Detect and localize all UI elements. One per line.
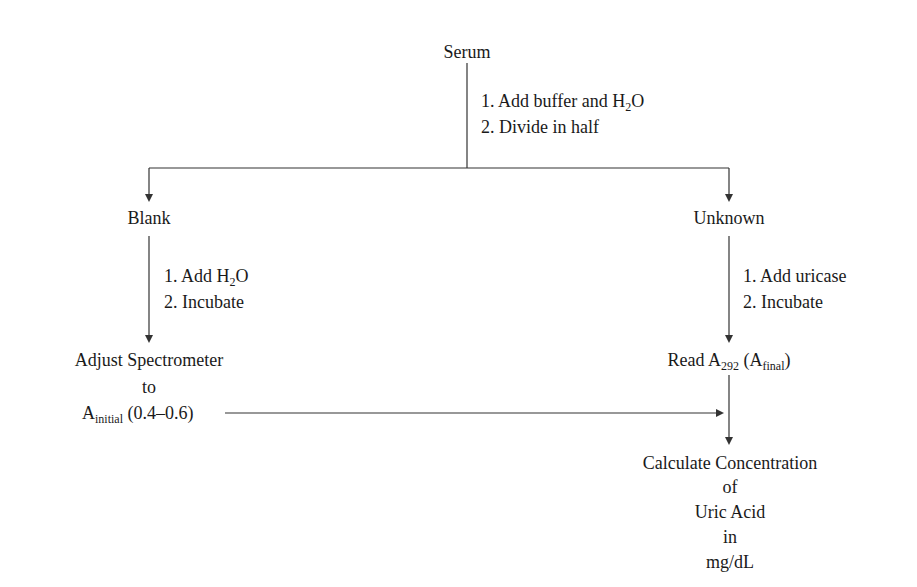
blank-step-2: 2. Incubate (164, 289, 249, 315)
node-blank: Blank (128, 208, 171, 228)
serum-step-1: 1. Add buffer and H2O (481, 88, 644, 114)
node-calculate-line3: Uric Acid (695, 502, 765, 522)
node-adjust-line1: Adjust Spectrometer (75, 350, 223, 370)
blank-steps: 1. Add H2O 2. Incubate (164, 263, 249, 315)
blank-step-1: 1. Add H2O (164, 263, 249, 289)
node-calculate-line4: in (723, 527, 737, 547)
unknown-step-2: 2. Incubate (743, 289, 846, 315)
node-adjust-line2: to (142, 377, 156, 397)
node-serum: Serum (444, 42, 491, 62)
node-calculate-line2: of (723, 477, 738, 497)
node-unknown: Unknown (694, 208, 765, 228)
node-calculate-line1: Calculate Concentration (643, 453, 817, 473)
serum-steps: 1. Add buffer and H2O 2. Divide in half (481, 88, 644, 140)
node-calculate-line5: mg/dL (706, 552, 754, 572)
node-adjust-a-initial: Ainitial (0.4–0.6) (82, 403, 194, 423)
unknown-step-1: 1. Add uricase (743, 263, 846, 289)
node-read-a292: Read A292 (Afinal) (668, 350, 791, 370)
unknown-steps: 1. Add uricase 2. Incubate (743, 263, 846, 315)
serum-step-2: 2. Divide in half (481, 114, 644, 140)
